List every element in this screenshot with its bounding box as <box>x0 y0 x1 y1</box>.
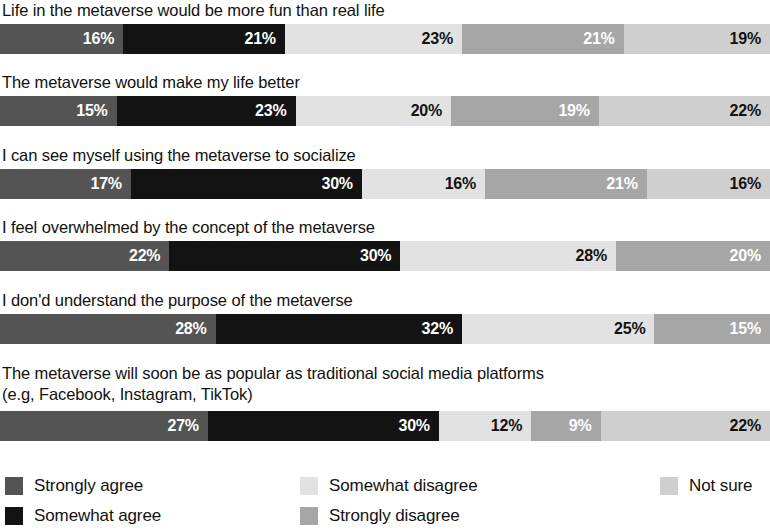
bar-segment[interactable]: 20% <box>296 96 452 126</box>
bar-segment-value: 23% <box>255 102 286 120</box>
question-label: I feel overwhelmed by the concept of the… <box>0 217 770 241</box>
bar-segment[interactable]: 21% <box>462 24 624 54</box>
bar-segment[interactable]: 30% <box>131 169 362 199</box>
bar-segment[interactable]: 15% <box>654 314 770 344</box>
stacked-bar: 15%23%20%19%22% <box>0 96 770 126</box>
bar-segment[interactable]: 32% <box>216 314 462 344</box>
legend-label: Strongly agree <box>34 476 143 496</box>
bar-segment-value: 19% <box>730 30 761 48</box>
legend-item[interactable]: Somewhat agree <box>5 503 161 529</box>
legend-swatch-icon <box>5 477 23 495</box>
stacked-bar: 28%32%25%15% <box>0 314 770 344</box>
bar-segment[interactable]: 12% <box>439 411 531 441</box>
bar-segment-value: 20% <box>730 247 761 265</box>
legend-label: Somewhat disagree <box>329 476 478 496</box>
bar-segment[interactable]: 16% <box>647 169 770 199</box>
bar-segment[interactable]: 28% <box>400 241 616 271</box>
bar-segment-value: 25% <box>614 320 645 338</box>
legend-label: Somewhat agree <box>34 506 161 526</box>
bar-segment[interactable]: 21% <box>485 169 647 199</box>
bar-segment-value: 28% <box>175 320 206 338</box>
bar-segment-value: 28% <box>576 247 607 265</box>
question-label: Life in the metaverse would be more fun … <box>0 0 770 24</box>
bar-segment-value: 32% <box>422 320 453 338</box>
question-label: I don'd understand the purpose of the me… <box>0 290 770 314</box>
bar-segment-value: 21% <box>583 30 614 48</box>
question-label: I can see myself using the metaverse to … <box>0 145 770 169</box>
bar-segment-value: 21% <box>606 175 637 193</box>
stacked-bar: 27%30%12%9%22% <box>0 411 770 441</box>
bar-segment[interactable]: 19% <box>624 24 770 54</box>
bar-segment-value: 16% <box>730 175 761 193</box>
legend-item[interactable]: Not sure <box>660 473 752 499</box>
chart-legend: Strongly agreeSomewhat agreeSomewhat dis… <box>0 471 770 531</box>
bar-segment-value: 9% <box>569 417 592 435</box>
bar-segment-value: 15% <box>730 320 761 338</box>
legend-swatch-icon <box>300 507 318 525</box>
bar-segment[interactable]: 30% <box>208 411 439 441</box>
stacked-bar: 22%30%28%20% <box>0 241 770 271</box>
question-group: I don'd understand the purpose of the me… <box>0 290 770 344</box>
bar-segment[interactable]: 28% <box>0 314 216 344</box>
bar-segment[interactable]: 21% <box>123 24 285 54</box>
bar-segment[interactable]: 22% <box>599 96 770 126</box>
stacked-bar: 17%30%16%21%16% <box>0 169 770 199</box>
bar-segment-value: 27% <box>167 417 198 435</box>
legend-label: Strongly disagree <box>329 506 460 526</box>
bar-segment[interactable]: 25% <box>462 314 655 344</box>
question-group: The metaverse would make my life better1… <box>0 72 770 126</box>
bar-segment[interactable]: 27% <box>0 411 208 441</box>
legend-swatch-icon <box>300 477 318 495</box>
bar-segment[interactable]: 20% <box>616 241 770 271</box>
bar-segment-value: 22% <box>730 102 761 120</box>
question-group: I feel overwhelmed by the concept of the… <box>0 217 770 271</box>
bar-segment[interactable]: 23% <box>117 96 296 126</box>
bar-segment-value: 30% <box>321 175 352 193</box>
question-group: I can see myself using the metaverse to … <box>0 145 770 199</box>
bar-segment-value: 15% <box>76 102 107 120</box>
legend-item[interactable]: Somewhat disagree <box>300 473 478 499</box>
bar-segment-value: 16% <box>83 30 114 48</box>
bar-segment[interactable]: 22% <box>601 411 770 441</box>
question-label: The metaverse would make my life better <box>0 72 770 96</box>
bar-segment-value: 22% <box>730 417 761 435</box>
legend-item[interactable]: Strongly disagree <box>300 503 460 529</box>
bar-segment[interactable]: 30% <box>169 241 400 271</box>
bar-segment-value: 19% <box>558 102 589 120</box>
bar-segment[interactable]: 16% <box>0 24 123 54</box>
bar-segment[interactable]: 19% <box>451 96 599 126</box>
legend-swatch-icon <box>5 507 23 525</box>
bar-segment[interactable]: 23% <box>285 24 462 54</box>
bar-segment-value: 16% <box>445 175 476 193</box>
stacked-bar: 16%21%23%21%19% <box>0 24 770 54</box>
bar-segment-value: 22% <box>129 247 160 265</box>
bar-segment-value: 23% <box>422 30 453 48</box>
bar-segment-value: 12% <box>491 417 522 435</box>
bar-segment[interactable]: 16% <box>362 169 485 199</box>
legend-swatch-icon <box>660 477 678 495</box>
bar-segment[interactable]: 22% <box>0 241 169 271</box>
bar-segment-value: 30% <box>398 417 429 435</box>
bar-segment[interactable]: 9% <box>531 411 600 441</box>
legend-item[interactable]: Strongly agree <box>5 473 143 499</box>
bar-segment[interactable]: 15% <box>0 96 117 126</box>
stacked-bar-chart: Life in the metaverse would be more fun … <box>0 0 770 531</box>
bar-segment[interactable]: 17% <box>0 169 131 199</box>
bar-segment-value: 17% <box>90 175 121 193</box>
legend-label: Not sure <box>689 476 752 496</box>
question-group: Life in the metaverse would be more fun … <box>0 0 770 54</box>
question-label: The metaverse will soon be as popular as… <box>0 363 770 411</box>
bar-segment-value: 30% <box>360 247 391 265</box>
question-group: The metaverse will soon be as popular as… <box>0 363 770 441</box>
bar-segment-value: 21% <box>244 30 275 48</box>
bar-segment-value: 20% <box>411 102 442 120</box>
